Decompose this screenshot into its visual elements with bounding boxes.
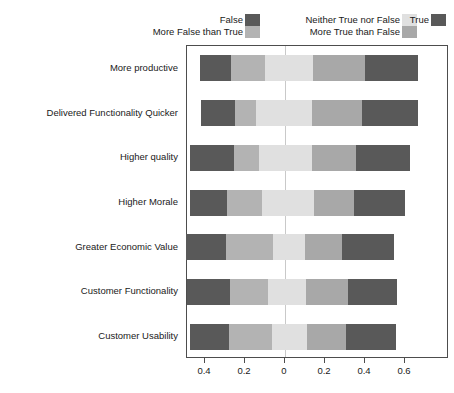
bar-segment — [231, 55, 265, 81]
x-axis-tick — [244, 358, 245, 363]
y-axis-label: Customer Functionality — [0, 285, 178, 296]
bar-segment — [354, 190, 405, 216]
bar-segment — [306, 279, 348, 305]
bar-row — [187, 279, 447, 305]
y-axis-label: Delivered Functionality Quicker — [0, 107, 178, 118]
bar-segment — [365, 55, 418, 81]
bar-row — [187, 145, 447, 171]
y-axis-label: Higher quality — [0, 151, 178, 162]
bar-segment — [259, 145, 312, 171]
bar-segment — [190, 190, 227, 216]
legend-item-label: True — [0, 14, 429, 25]
bar-segment — [262, 190, 314, 216]
x-axis-tick-label: 0.4 — [197, 365, 210, 376]
bar-row — [187, 190, 447, 216]
x-axis-tick-label: 0.2 — [237, 365, 250, 376]
bar-row — [187, 234, 447, 260]
bar-segment — [314, 190, 354, 216]
bar-segment — [201, 100, 235, 126]
bar-segment — [187, 279, 230, 305]
chart-legend: FalseMore False than TrueNeither True no… — [0, 0, 454, 44]
bar-segment — [190, 145, 234, 171]
bar-segment — [272, 324, 307, 350]
y-axis-label: Higher Morale — [0, 196, 178, 207]
x-axis-tick — [204, 358, 205, 363]
bar-segment — [186, 234, 226, 260]
bar-segment — [265, 55, 313, 81]
y-axis-label: Greater Economic Value — [0, 241, 178, 252]
y-axis-label: Customer Usability — [0, 330, 178, 341]
bar-segment — [229, 324, 272, 350]
bar-segment — [273, 234, 305, 260]
bar-segment — [226, 234, 273, 260]
bar-segment — [346, 324, 396, 350]
bar-segment — [190, 324, 229, 350]
bar-segment — [234, 145, 259, 171]
bar-segment — [356, 145, 410, 171]
bar-segment — [313, 55, 365, 81]
legend-color-swatch — [431, 14, 446, 26]
x-axis-tick — [324, 358, 325, 363]
bar-segment — [256, 100, 312, 126]
bar-segment — [312, 145, 356, 171]
bar-segment — [230, 279, 268, 305]
x-axis-tick-label: 0.2 — [317, 365, 330, 376]
bar-segment — [227, 190, 262, 216]
bar-segment — [342, 234, 394, 260]
bar-segment — [362, 100, 418, 126]
bar-row — [187, 100, 447, 126]
plot-area — [186, 45, 448, 358]
bar-row — [187, 324, 447, 350]
bar-row — [187, 55, 447, 81]
x-axis-tick — [404, 358, 405, 363]
y-axis-label: More productive — [0, 62, 178, 73]
bar-segment — [312, 100, 362, 126]
diverging-stacked-bar-chart: FalseMore False than TrueNeither True no… — [0, 0, 454, 393]
x-axis-tick-label: 0.4 — [357, 365, 370, 376]
legend-item[interactable]: More True than False — [0, 26, 454, 38]
bar-segment — [305, 234, 342, 260]
x-axis: 0.40.200.20.40.6 — [186, 358, 448, 388]
legend-item[interactable]: True — [0, 14, 454, 26]
x-axis-tick — [284, 358, 285, 363]
x-axis-tick — [364, 358, 365, 363]
legend-color-swatch — [402, 26, 417, 38]
legend-item-label: More True than False — [0, 26, 400, 37]
bar-segment — [307, 324, 346, 350]
x-axis-tick-label: 0.6 — [397, 365, 410, 376]
bar-segment — [348, 279, 397, 305]
bar-segment — [235, 100, 256, 126]
x-axis-tick-label: 0 — [281, 365, 286, 376]
bar-segment — [200, 55, 231, 81]
bar-segment — [268, 279, 306, 305]
